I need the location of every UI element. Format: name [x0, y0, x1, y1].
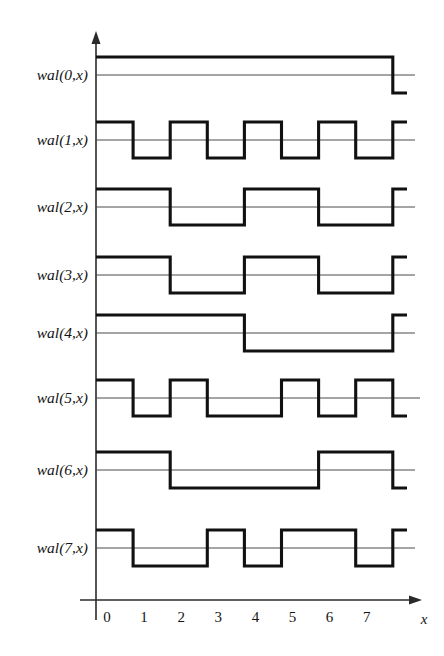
x-tick-label-6: 6: [326, 609, 334, 625]
row-label-2: wal(2,x): [37, 198, 88, 216]
row-label-3: wal(3,x): [37, 266, 88, 284]
x-tick-label-2: 2: [177, 609, 185, 625]
row-label-4: wal(4,x): [37, 324, 88, 342]
x-axis-label: x: [420, 611, 428, 627]
x-tick-label-3: 3: [215, 609, 223, 625]
x-tick-label-group: 01234567: [103, 609, 371, 625]
waveform-group: [96, 57, 407, 566]
x-axis-arrowhead: [409, 596, 422, 605]
row-label-1: wal(1,x): [37, 131, 88, 149]
row-label-7: wal(7,x): [37, 539, 88, 557]
walsh-function-figure: wal(0,x)wal(1,x)wal(2,x)wal(3,x)wal(4,x)…: [0, 0, 444, 656]
y-axis: [92, 31, 101, 620]
x-tick-label-4: 4: [252, 609, 260, 625]
row-label-0: wal(0,x): [37, 66, 88, 84]
row-label-6: wal(6,x): [37, 461, 88, 479]
zero-reference-lines: [95, 75, 420, 548]
x-axis: [80, 596, 422, 605]
y-axis-arrowhead: [92, 31, 101, 44]
row-label-5: wal(5,x): [37, 389, 88, 407]
row-label-group: wal(0,x)wal(1,x)wal(2,x)wal(3,x)wal(4,x)…: [37, 66, 88, 557]
x-tick-label-7: 7: [363, 609, 371, 625]
x-tick-label-5: 5: [289, 609, 297, 625]
x-tick-label-0: 0: [103, 609, 111, 625]
x-tick-label-1: 1: [140, 609, 148, 625]
walsh-plot-svg: wal(0,x)wal(1,x)wal(2,x)wal(3,x)wal(4,x)…: [0, 0, 444, 656]
